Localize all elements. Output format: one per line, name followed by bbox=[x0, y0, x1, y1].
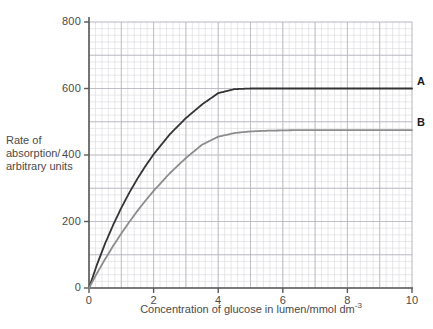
x-axis-title-exponent: -3 bbox=[355, 301, 362, 310]
y-axis-title-line-2: absorption/ bbox=[6, 147, 84, 160]
x-axis-title-text: Concentration of glucose in lumen/mmol d… bbox=[140, 303, 355, 315]
y-axis-title: Rate of absorption/ arbitrary units bbox=[6, 134, 84, 173]
y-tick-label-0: 0 bbox=[43, 281, 81, 293]
series-label-a: A bbox=[417, 75, 425, 87]
chart-figure: 0200400600800 0246810 AB Rate of absorpt… bbox=[0, 0, 433, 329]
x-axis-title: Concentration of glucose in lumen/mmol d… bbox=[89, 303, 413, 315]
y-axis-title-line-3: arbitrary units bbox=[6, 160, 84, 173]
y-tick-label-600: 600 bbox=[43, 82, 81, 94]
axis-ticks bbox=[84, 22, 412, 293]
y-tick-label-800: 800 bbox=[43, 15, 81, 27]
series-label-b: B bbox=[417, 116, 425, 128]
axis-lines bbox=[89, 17, 413, 288]
y-axis-title-line-1: Rate of bbox=[6, 134, 84, 147]
y-tick-label-200: 200 bbox=[43, 215, 81, 227]
